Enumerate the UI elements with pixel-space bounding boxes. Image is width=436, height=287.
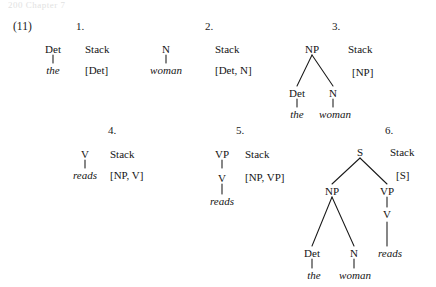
- tree4-stack-label: Stack: [110, 148, 134, 160]
- cut-off-header-text: 200 Chapter 7: [8, 0, 66, 10]
- tree2-leaf-woman: woman: [150, 64, 182, 76]
- tree2-stack-label: Stack: [215, 43, 239, 55]
- tree2-node-n: N: [162, 43, 170, 55]
- tree6-stack-value: [S]: [396, 169, 409, 181]
- edge-tree6-np-n: [332, 197, 354, 246]
- step-number-6: 6.: [385, 124, 393, 136]
- tree6-leaf-the: the: [307, 269, 320, 281]
- tree5-node-v: V: [218, 172, 226, 184]
- tree3-stack-value: [NP]: [352, 66, 373, 78]
- tree5-leaf-reads: reads: [210, 195, 234, 207]
- tree4-node-v: V: [81, 148, 89, 160]
- edge-tree6-s-np: [332, 158, 360, 184]
- tree6-leaf-reads: reads: [378, 247, 402, 259]
- tree6-node-np: NP: [325, 185, 339, 197]
- tree3-stack-label: Stack: [348, 43, 372, 55]
- tree3-leaf-woman: woman: [319, 108, 351, 120]
- tree1-stack-label: Stack: [85, 43, 109, 55]
- tree1-stack-value: [Det]: [85, 64, 108, 76]
- tree1-node-det: Det: [45, 43, 61, 55]
- tree6-leaf-woman: woman: [339, 269, 371, 281]
- tree2-stack-value: [Det, N]: [215, 64, 252, 76]
- edge-tree3-np-n: [312, 55, 333, 86]
- tree6-node-v: V: [383, 208, 391, 220]
- tree1-leaf-the: the: [46, 64, 59, 76]
- edge-tree6-np-det: [312, 197, 332, 246]
- tree3-node-det: Det: [289, 87, 305, 99]
- tree5-stack-value: [NP, VP]: [245, 171, 285, 183]
- tree5-stack-label: Stack: [245, 148, 269, 160]
- tree3-node-np: NP: [305, 43, 319, 55]
- parse-steps-figure: 200 Chapter 7 (11) 1. Det the Stack: [0, 0, 436, 287]
- step-number-5: 5.: [236, 124, 244, 136]
- step-number-1: 1.: [76, 20, 84, 32]
- tree4-leaf-reads: reads: [73, 169, 97, 181]
- tree3-node-n: N: [329, 87, 337, 99]
- tree6-node-det: Det: [304, 247, 320, 259]
- step-number-2: 2.: [205, 20, 213, 32]
- tree5-node-vp: VP: [215, 148, 229, 160]
- step-number-4: 4.: [108, 124, 116, 136]
- tree3-leaf-the: the: [290, 108, 303, 120]
- edge-tree3-np-det: [297, 55, 312, 86]
- edge-tree6-s-vp: [360, 158, 387, 184]
- example-number: (11): [13, 20, 32, 32]
- tree6-node-vp: VP: [380, 185, 394, 197]
- step-number-3: 3.: [332, 20, 340, 32]
- tree4-stack-value: [NP, V]: [110, 169, 143, 181]
- tree6-node-s: S: [357, 146, 363, 158]
- tree6-node-n: N: [350, 247, 358, 259]
- tree6-stack-label: Stack: [390, 146, 414, 158]
